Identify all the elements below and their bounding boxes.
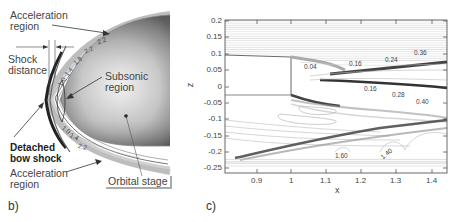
contour-label: 0.36 [414, 49, 427, 56]
y-tick-label: -0.05 [204, 98, 222, 107]
y-tick-label: -0.2 [208, 147, 222, 156]
contour-label: 1.60 [335, 152, 348, 159]
x-tick-label: 1 [289, 176, 293, 185]
y-tick-label: 0.15 [206, 32, 222, 41]
contour-label: 0.40 [416, 98, 429, 105]
y-axis-label: z [185, 83, 195, 88]
contour-label: 0.24 [385, 56, 398, 63]
x-tick-label: 0.9 [251, 176, 262, 185]
contour-label: 0.28 [392, 91, 405, 98]
y-tick-label: 0.05 [206, 65, 222, 74]
contour-label: 0.04 [304, 63, 317, 70]
y-tick-label: 0.2 [211, 16, 222, 25]
x-tick-label: 1.3 [390, 176, 401, 185]
contour-label: 0.16 [349, 60, 362, 67]
y-tick-label: -0.25 [204, 163, 222, 172]
y-tick-label: 0 [218, 82, 222, 91]
mach-contour-plot [0, 0, 455, 222]
y-tick-label: -0.15 [204, 131, 222, 140]
x-axis-label: x [335, 185, 340, 195]
contour-label: 0.16 [364, 85, 377, 92]
y-tick-label: -0.1 [208, 114, 222, 123]
x-tick-label: 1.1 [320, 176, 331, 185]
y-tick-label: 0.1 [211, 49, 222, 58]
panel-label-c: c) [206, 199, 216, 213]
x-tick-label: 1.2 [355, 176, 366, 185]
x-tick-label: 1.4 [426, 176, 437, 185]
